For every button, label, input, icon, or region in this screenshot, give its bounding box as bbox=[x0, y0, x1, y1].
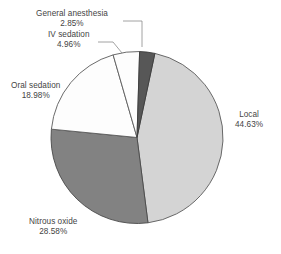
pie-label-nitrous-oxide-value: 28.58% bbox=[29, 227, 77, 237]
leader-line-iv-sedation bbox=[98, 42, 122, 53]
pie-chart: General anesthesia 2.85% IV sedation 4.9… bbox=[0, 0, 281, 254]
pie-label-general-anesthesia-name: General anesthesia bbox=[36, 9, 108, 19]
pie-label-local-name: Local bbox=[235, 110, 263, 120]
pie-label-local: Local 44.63% bbox=[235, 110, 263, 131]
pie-label-iv-sedation-name: IV sedation bbox=[48, 30, 90, 40]
pie-slice-group bbox=[51, 52, 223, 224]
pie-label-iv-sedation: IV sedation 4.96% bbox=[48, 30, 90, 51]
leader-line-general-anesthesia bbox=[123, 21, 142, 47]
pie-label-general-anesthesia-value: 2.85% bbox=[36, 19, 108, 29]
pie-label-local-value: 44.63% bbox=[235, 120, 263, 130]
pie-label-nitrous-oxide-name: Nitrous oxide bbox=[29, 217, 77, 227]
pie-label-oral-sedation-name: Oral sedation bbox=[11, 81, 60, 91]
pie-label-oral-sedation-value: 18.98% bbox=[11, 91, 60, 101]
pie-label-nitrous-oxide: Nitrous oxide 28.58% bbox=[29, 217, 77, 238]
pie-slice-nitrous-oxide bbox=[51, 129, 148, 223]
pie-label-iv-sedation-value: 4.96% bbox=[48, 40, 90, 50]
pie-label-general-anesthesia: General anesthesia 2.85% bbox=[36, 9, 108, 30]
pie-label-oral-sedation: Oral sedation 18.98% bbox=[11, 81, 60, 102]
